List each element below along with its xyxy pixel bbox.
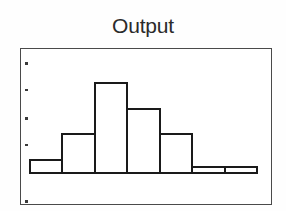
- histogram-bar: [160, 134, 192, 173]
- y-axis-tick-dot: [25, 200, 28, 203]
- y-axis-tick-dot: [25, 144, 28, 147]
- histogram-plot: [20, 48, 272, 205]
- histogram-bar: [225, 167, 257, 173]
- histogram-bar: [127, 109, 159, 173]
- histogram-bar: [62, 134, 94, 173]
- chart-title: Output: [0, 14, 286, 38]
- histogram-bar: [192, 167, 224, 173]
- y-axis-tick-dot: [25, 117, 28, 120]
- histogram-bars: [30, 83, 257, 173]
- y-axis-tick-dot: [25, 89, 28, 92]
- y-axis-tick-dot: [25, 62, 28, 65]
- histogram-bar: [95, 83, 127, 173]
- histogram-bar: [30, 160, 62, 173]
- figure-container: Output: [0, 0, 286, 211]
